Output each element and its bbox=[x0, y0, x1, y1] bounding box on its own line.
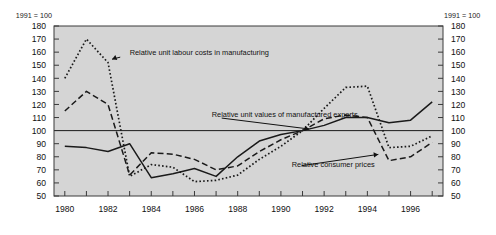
x-tick-label: 1996 bbox=[401, 204, 420, 214]
y-tick-label-right: 100 bbox=[451, 126, 466, 136]
y-tick-label-left: 60 bbox=[36, 178, 46, 188]
y-tick-label-right: 170 bbox=[451, 34, 466, 44]
y-tick-label-left: 180 bbox=[32, 21, 47, 31]
x-tick-label: 1986 bbox=[185, 204, 204, 214]
y-tick-label-right: 180 bbox=[451, 21, 466, 31]
y-tick-label-right: 70 bbox=[451, 165, 461, 175]
y-tick-label-left: 130 bbox=[32, 87, 47, 97]
x-tick-label: 1980 bbox=[55, 204, 74, 214]
x-tick-label: 1994 bbox=[358, 204, 377, 214]
y-tick-label-left: 160 bbox=[32, 47, 47, 57]
y-tick-label-left: 110 bbox=[32, 113, 46, 123]
y-tick-label-left: 70 bbox=[36, 165, 46, 175]
annotation-label-0: Relative unit labour costs in manufactur… bbox=[130, 48, 269, 57]
y-tick-label-left: 140 bbox=[32, 74, 47, 84]
y-tick-label-right: 120 bbox=[451, 100, 466, 110]
x-tick-label: 1992 bbox=[315, 204, 334, 214]
unit-note-left: 1991 = 100 bbox=[16, 11, 52, 20]
x-tick-label: 1984 bbox=[142, 204, 161, 214]
x-tick-label: 1982 bbox=[98, 204, 117, 214]
y-tick-label-left: 80 bbox=[36, 152, 46, 162]
y-tick-label-right: 160 bbox=[451, 47, 466, 57]
y-tick-label-left: 50 bbox=[36, 191, 46, 201]
y-tick-label-right: 80 bbox=[451, 152, 461, 162]
y-tick-label-right: 90 bbox=[451, 139, 461, 149]
y-tick-label-left: 120 bbox=[32, 100, 47, 110]
exchange-rate-competitiveness-line-chart: 5060708090100110120130140150160170180 50… bbox=[0, 0, 496, 235]
x-tick-label: 1988 bbox=[228, 204, 247, 214]
y-tick-label-right: 50 bbox=[451, 191, 461, 201]
x-tick-label: 1990 bbox=[271, 204, 290, 214]
y-tick-label-right: 150 bbox=[451, 60, 466, 70]
y-tick-label-left: 90 bbox=[36, 139, 46, 149]
y-tick-label-right: 140 bbox=[451, 74, 466, 84]
y-tick-label-left: 100 bbox=[32, 126, 47, 136]
chart-figure: 5060708090100110120130140150160170180 50… bbox=[0, 0, 496, 235]
y-tick-label-right: 130 bbox=[451, 87, 466, 97]
unit-note-right: 1991 = 100 bbox=[444, 11, 480, 20]
y-tick-label-right: 60 bbox=[451, 178, 461, 188]
annotation-label-1: Relative unit values of manufactured exp… bbox=[212, 110, 358, 119]
y-tick-label-left: 150 bbox=[32, 60, 47, 70]
y-tick-label-left: 170 bbox=[32, 34, 47, 44]
y-tick-label-right: 110 bbox=[451, 113, 465, 123]
